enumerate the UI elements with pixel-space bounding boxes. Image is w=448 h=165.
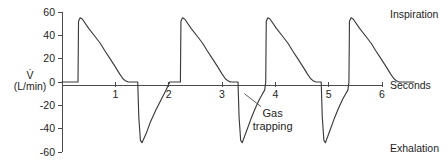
y-tick-label: -20 bbox=[40, 99, 55, 111]
flow-time-chart: 6040200-20-40-60 123456 Gas trapping V̇ … bbox=[0, 0, 448, 165]
x-axis-tick-labels: 123456 bbox=[112, 88, 385, 100]
y-tick-label: 20 bbox=[43, 52, 55, 64]
x-tick-label: 3 bbox=[219, 88, 225, 100]
y-tick-label: -40 bbox=[40, 122, 55, 134]
gas-trapping-label-line2: trapping bbox=[253, 120, 293, 132]
x-tick-label: 6 bbox=[379, 88, 385, 100]
gas-trapping-label-line1: Gas bbox=[263, 107, 284, 119]
y-tick-label: 60 bbox=[43, 6, 55, 18]
y-axis-label-units: (L/min) bbox=[14, 80, 47, 92]
seconds-axis-label: Seconds bbox=[390, 79, 431, 91]
y-tick-label: 40 bbox=[43, 29, 55, 41]
gas-trapping-annotation: Gas trapping bbox=[244, 94, 292, 132]
x-tick-label: 4 bbox=[272, 88, 278, 100]
flow-waveform-trace bbox=[62, 18, 414, 143]
x-tick-label: 5 bbox=[326, 88, 332, 100]
inspiration-label: Inspiration bbox=[390, 8, 439, 20]
y-tick-label: 0 bbox=[49, 76, 55, 88]
y-tick-label: -60 bbox=[40, 146, 55, 158]
y-axis-ticks bbox=[58, 12, 62, 152]
x-axis-group: 123456 bbox=[62, 82, 385, 100]
x-tick-label: 1 bbox=[112, 88, 118, 100]
flow-time-waveform-figure: 6040200-20-40-60 123456 Gas trapping V̇ … bbox=[0, 0, 448, 165]
exhalation-label: Exhalation bbox=[390, 142, 439, 154]
